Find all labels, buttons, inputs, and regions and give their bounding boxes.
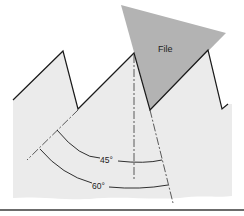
saw-file-diagram: File 45° 60° [0, 0, 244, 216]
saw-body [13, 50, 232, 199]
file-label: File [158, 44, 173, 54]
angle-60-label: 60° [92, 181, 105, 191]
angle-45-label: 45° [100, 155, 113, 165]
diagram-svg: File 45° 60° [0, 0, 244, 216]
